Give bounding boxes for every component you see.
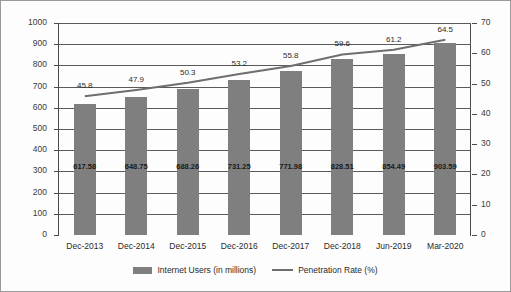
y-axis-left-label: 500 <box>15 124 47 133</box>
bar-value-label: 854.49 <box>370 163 418 171</box>
bar-value-label: 828.51 <box>318 163 366 171</box>
line-swatch-icon <box>272 269 293 271</box>
y-axis-right-label: 40 <box>481 109 511 118</box>
y-axis-left-label: 0 <box>15 230 47 239</box>
legend-label-internet-users: Internet Users (in millions) <box>157 265 256 275</box>
y-axis-right-tick <box>472 53 477 54</box>
plot-area: 617.58648.75688.26731.25771.98828.51854.… <box>59 23 471 235</box>
line-value-label: 61.2 <box>374 36 414 44</box>
chart-legend: Internet Users (in millions) Penetration… <box>1 265 510 275</box>
line-value-label: 45.8 <box>65 82 105 90</box>
line-value-label: 64.5 <box>425 26 465 34</box>
y-axis-right-tick <box>472 114 477 115</box>
line-value-label: 59.6 <box>322 40 362 48</box>
line-value-label: 55.8 <box>271 52 311 60</box>
y-axis-right-tick <box>472 84 477 85</box>
y-axis-right-tick <box>472 144 477 145</box>
line-value-label: 53.2 <box>219 60 259 68</box>
bar-value-label: 617.58 <box>61 163 109 171</box>
y-axis-left-label: 400 <box>15 145 47 154</box>
chart-container: 01002003004005006007008009001000 0102030… <box>0 0 511 292</box>
bar-value-label: 731.25 <box>215 163 263 171</box>
y-axis-left-label: 700 <box>15 82 47 91</box>
bar-value-label: 903.59 <box>421 163 469 171</box>
y-axis-left-label: 600 <box>15 103 47 112</box>
y-axis-right-label: 20 <box>481 169 511 178</box>
y-axis-left-label: 100 <box>15 209 47 218</box>
bar-value-label: 648.75 <box>112 163 160 171</box>
x-axis-label: Mar-2020 <box>415 242 475 251</box>
y-axis-right-tick <box>472 23 477 24</box>
y-axis-right-tick <box>472 205 477 206</box>
line-value-label: 47.9 <box>116 76 156 84</box>
line-value-label: 50.3 <box>168 69 208 77</box>
y-axis-left-label: 300 <box>15 166 47 175</box>
bar-value-label: 688.26 <box>164 163 212 171</box>
y-axis-right-tick <box>472 174 477 175</box>
bar-swatch-icon <box>133 267 152 274</box>
y-axis-left-label: 900 <box>15 39 47 48</box>
y-axis-left-label: 800 <box>15 60 47 69</box>
y-axis-left-tick <box>54 235 59 236</box>
y-axis-right-label: 0 <box>481 230 511 239</box>
y-axis-left-label: 200 <box>15 188 47 197</box>
legend-item-penetration-rate[interactable]: Penetration Rate (%) <box>272 265 377 275</box>
y-axis-right-label: 10 <box>481 200 511 209</box>
line-series <box>59 23 471 235</box>
y-axis-left-label: 1000 <box>15 18 47 27</box>
legend-item-internet-users[interactable]: Internet Users (in millions) <box>133 265 256 275</box>
bar-value-label: 771.98 <box>267 163 315 171</box>
y-axis-right-label: 60 <box>481 48 511 57</box>
y-axis-right-tick <box>472 235 477 236</box>
y-axis-right-label: 50 <box>481 79 511 88</box>
penetration-rate-line <box>85 40 446 97</box>
y-axis-right-label: 30 <box>481 139 511 148</box>
legend-label-penetration-rate: Penetration Rate (%) <box>298 265 377 275</box>
y-axis-right-label: 70 <box>481 18 511 27</box>
